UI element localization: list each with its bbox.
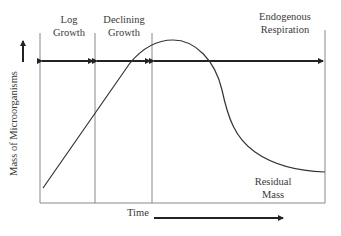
label-line: Declining <box>96 13 152 26</box>
growth-curve <box>43 40 325 188</box>
label-line: Log <box>45 13 93 26</box>
label-line: Respiration <box>240 23 330 36</box>
label-line: Residual <box>248 175 298 188</box>
phase-label-declining-growth: Declining Growth <box>96 13 152 39</box>
phase-label-endogenous-respiration: Endogenous Respiration <box>240 10 330 36</box>
label-line: Mass <box>248 188 298 201</box>
residual-mass-label: Residual Mass <box>248 175 298 201</box>
phase-label-log-growth: Log Growth <box>45 13 93 39</box>
label-line: Growth <box>96 26 152 39</box>
x-axis-label: Time <box>127 207 149 218</box>
label-line: Endogenous <box>240 10 330 23</box>
label-line: Growth <box>45 26 93 39</box>
y-axis-label: Mass of Microorganisms <box>8 59 19 189</box>
